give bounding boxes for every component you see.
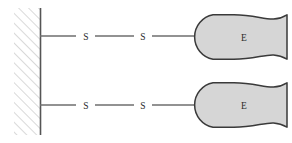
lower-element-label: E — [241, 101, 247, 111]
lower-branch: S S E — [40, 83, 287, 127]
upper-spring-label-2: S — [140, 32, 145, 42]
upper-spring-label-1: S — [83, 32, 88, 42]
upper-branch: S S E — [40, 15, 287, 59]
schematic-diagram-canvas: S S E S S E — [0, 0, 292, 143]
upper-element-label: E — [241, 33, 247, 43]
fixed-support-wall — [14, 8, 41, 135]
upper-element-block: E — [195, 15, 287, 59]
wall-hatch-fill — [14, 8, 40, 135]
lower-spring-label-2: S — [140, 101, 145, 111]
lower-element-block: E — [195, 83, 287, 127]
lower-spring-label-1: S — [83, 101, 88, 111]
schematic-svg: S S E S S E — [0, 0, 292, 143]
